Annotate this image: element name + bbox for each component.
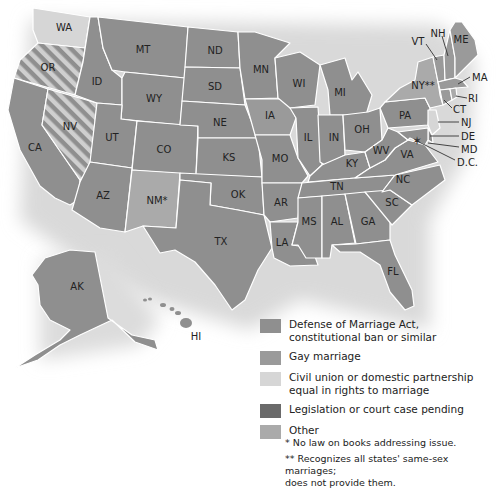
label-me: ME (454, 34, 469, 45)
legend: Defense of Marriage Act, constitutional … (260, 318, 496, 445)
label-pa: PA (399, 110, 411, 121)
footnote-double-star-line2: does not provide them. (285, 477, 495, 489)
label-ma: MA (472, 72, 488, 83)
legend-label-doma-line1: Defense of Marriage Act, (289, 318, 436, 331)
label-ms: MS (302, 216, 317, 227)
label-id: ID (92, 76, 103, 87)
label-co: CO (157, 144, 172, 155)
label-or: OR (41, 62, 56, 73)
footnote-double-star-line1: ** Recognizes all states' same-sex marri… (285, 453, 495, 477)
label-sd: SD (208, 81, 222, 92)
label-ct: CT (453, 104, 467, 115)
legend-item-gay-marriage: Gay marriage (260, 350, 496, 365)
label-wv: WV (373, 145, 390, 156)
swatch-gay-marriage (260, 351, 281, 365)
label-ks: KS (223, 152, 236, 163)
label-nm: NM* (146, 195, 167, 206)
legend-label-civil-line2: equal in rights to marriage (289, 384, 473, 397)
label-nh: NH (431, 28, 446, 39)
label-fl: FL (387, 266, 399, 277)
label-ca: CA (28, 142, 42, 153)
label-nj: NJ (461, 117, 471, 128)
label-ri: RI (468, 93, 478, 104)
label-al: AL (331, 216, 344, 227)
label-nd: ND (207, 45, 222, 56)
swatch-pending (260, 404, 281, 418)
swatch-other (260, 425, 281, 439)
label-ut: UT (105, 132, 119, 143)
label-il: IL (304, 132, 313, 143)
label-in: IN (329, 132, 339, 143)
label-ia: IA (265, 110, 275, 121)
label-la: LA (276, 237, 289, 248)
legend-label-civil-line1: Civil union or domestic partnership (289, 371, 473, 384)
label-va: VA (400, 149, 413, 160)
label-oh: OH (354, 124, 369, 135)
label-mo: MO (272, 153, 289, 164)
legend-item-civil-union: Civil union or domestic partnership equa… (260, 371, 496, 397)
label-ny: NY** (411, 80, 435, 91)
legend-label-gay-marriage: Gay marriage (289, 350, 361, 363)
legend-item-doma: Defense of Marriage Act, constitutional … (260, 318, 496, 344)
label-nc: NC (396, 174, 410, 185)
label-ak: AK (70, 281, 84, 292)
swatch-doma (260, 319, 281, 333)
footnotes: * No law on books addressing issue. ** R… (285, 437, 495, 489)
label-wi: WI (293, 78, 306, 89)
label-tn: TN (329, 181, 344, 192)
label-ok: OK (231, 189, 246, 200)
label-hi: HI (191, 331, 201, 342)
label-vt: VT (412, 36, 426, 47)
label-ky: KY (346, 158, 359, 169)
label-mn: MN (253, 64, 269, 75)
label-tx: TX (214, 236, 228, 247)
label-mt: MT (136, 44, 152, 55)
label-az: AZ (96, 190, 110, 201)
label-wa: WA (56, 22, 72, 33)
label-md: MD (461, 144, 478, 155)
label-nv: NV (63, 121, 77, 132)
label-mi: MI (334, 87, 346, 98)
legend-label-doma-line2: constitutional ban or similar (289, 331, 436, 344)
dc-star-icon: ✶ (412, 134, 422, 148)
label-wy: WY (146, 93, 163, 104)
legend-label-other: Other (289, 424, 319, 437)
label-de: DE (461, 131, 475, 142)
label-ga: GA (361, 216, 376, 227)
label-sc: SC (385, 197, 398, 208)
label-dc: D.C. (457, 157, 478, 168)
label-ne: NE (213, 117, 227, 128)
legend-label-pending: Legislation or court case pending (289, 403, 464, 416)
legend-item-pending: Legislation or court case pending (260, 403, 496, 418)
footnote-single-star: * No law on books addressing issue. (285, 437, 495, 449)
label-ar: AR (274, 197, 288, 208)
swatch-civil-union (260, 372, 281, 386)
